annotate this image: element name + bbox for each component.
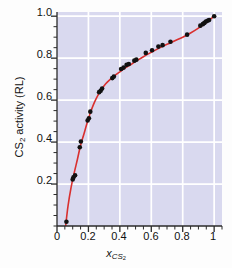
xtick-label: 0.8 [167,231,197,242]
data-point [127,62,132,67]
data-point [64,220,69,225]
y-axis-title: CS2 activity (RL) [13,22,27,212]
x-axis-title: xCS2 [0,247,232,261]
xtick-label: 0.4 [104,231,134,242]
plot-area [57,12,222,226]
data-point [134,57,139,62]
data-point [143,51,148,56]
data-point [77,145,82,150]
data-point [79,139,84,144]
data-point [88,109,93,114]
data-point [150,48,155,53]
data-point [73,173,78,178]
xtick-label: 1 [198,231,228,242]
data-point [168,39,173,44]
plot-canvas [57,12,222,226]
xtick-label: 0 [42,231,72,242]
data-point [100,86,105,91]
data-point [87,116,92,121]
data-point [212,14,217,19]
data-point [207,18,212,23]
data-point [156,44,161,49]
data-point [185,32,190,37]
x-axis-title-subscript-number: 2 [123,255,126,261]
y-axis-title-subscript: 2 [18,138,27,142]
y-axis-title-rest: activity (RL) [13,77,25,138]
xtick-label: 0.2 [73,231,103,242]
data-point [160,43,165,48]
chart-figure: 1.0 0.8 0.6 0.4 0.2 0 0.2 0.4 0.6 0.8 1 … [0,0,232,268]
xtick-label: 0.6 [136,231,166,242]
x-axis-title-subscript: CS [112,252,123,261]
ytick-label: 1.0 [22,7,52,18]
y-axis-title-base: CS [13,142,25,157]
data-point [112,74,117,79]
